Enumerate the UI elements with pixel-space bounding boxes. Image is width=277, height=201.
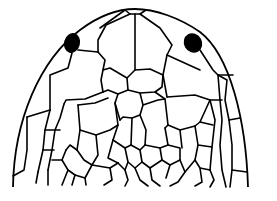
head-scales xyxy=(13,10,247,187)
head-scale-illustration xyxy=(0,0,277,201)
left-eye-spot xyxy=(62,31,83,54)
head-outline xyxy=(13,9,248,187)
head-scale-drawing xyxy=(0,0,277,201)
